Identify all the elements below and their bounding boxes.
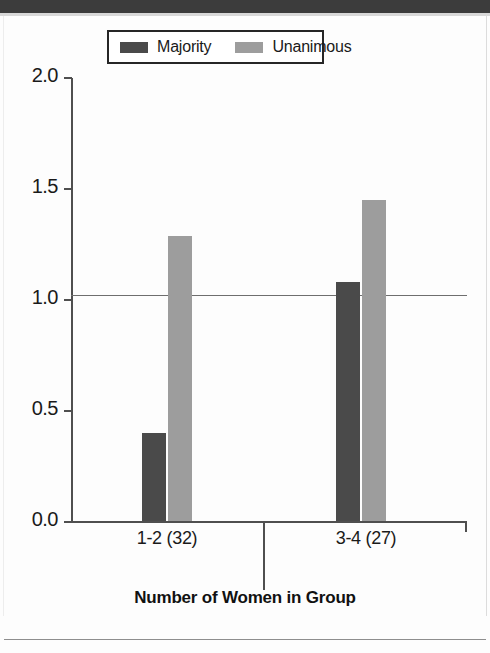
bar-majority-1 xyxy=(142,433,166,522)
x-axis-line xyxy=(71,521,467,523)
x-category-label-1: 1-2 (32) xyxy=(71,528,263,549)
bar-unanimous-2 xyxy=(362,200,386,522)
chart-page: Majority Unanimous 0.00.51.01.52.0 1-2 (… xyxy=(0,0,490,653)
bars-layer xyxy=(0,0,490,523)
x-axis-title: Number of Women in Group xyxy=(0,588,490,608)
x-category-label-2: 3-4 (27) xyxy=(265,528,467,549)
bar-majority-2 xyxy=(336,282,360,522)
plot-area: 0.00.51.01.52.0 1-2 (32) 3-4 (27) Number… xyxy=(0,0,490,653)
bar-unanimous-1 xyxy=(168,236,192,522)
